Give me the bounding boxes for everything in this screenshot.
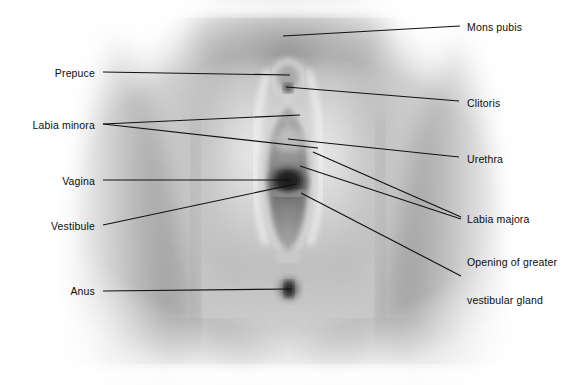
- label-vagina[interactable]: Vagina: [0, 175, 95, 188]
- label-vestibular-gland-line-2: vestibular gland: [467, 294, 557, 307]
- leader-line-prepuce: [103, 72, 290, 75]
- leader-line-clitoris: [286, 87, 459, 101]
- label-prepuce[interactable]: Prepuce: [0, 67, 95, 80]
- label-vestibule[interactable]: Vestibule: [0, 220, 95, 233]
- label-labia-majora[interactable]: Labia majora: [467, 213, 530, 226]
- leader-line-labia-minora-upper: [103, 115, 300, 124]
- leader-line-labia-majora-upper: [313, 152, 461, 217]
- leader-line-mons-pubis: [283, 26, 460, 36]
- leader-line-labia-minora-lower: [103, 124, 318, 148]
- label-vestibular-gland-line-1: Opening of greater: [467, 256, 557, 269]
- leader-line-vestibular-gland: [301, 193, 461, 276]
- anatomy-figure: Mons pubis Prepuce Clitoris Labia minora…: [0, 0, 571, 385]
- label-clitoris[interactable]: Clitoris: [467, 97, 500, 110]
- label-anus[interactable]: Anus: [0, 285, 95, 298]
- leader-line-labia-majora-lower: [300, 166, 461, 219]
- label-opening-of-greater-vestibular-gland[interactable]: Opening of greater vestibular gland: [467, 231, 557, 331]
- label-labia-minora[interactable]: Labia minora: [0, 119, 95, 132]
- label-urethra[interactable]: Urethra: [467, 153, 503, 166]
- label-mons-pubis[interactable]: Mons pubis: [467, 21, 522, 34]
- leader-line-anus: [103, 289, 291, 291]
- leader-line-vestibule: [103, 184, 296, 225]
